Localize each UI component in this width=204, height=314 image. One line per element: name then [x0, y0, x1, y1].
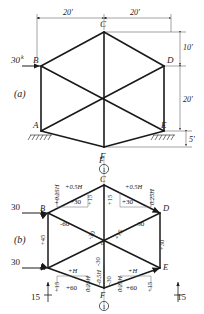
- panel-a-group: 20' 20' 10' 20' 5': [10, 8, 195, 161]
- support-a-hatch: [28, 135, 52, 140]
- member-col-de: +30: [158, 240, 165, 250]
- panel-a-label: (a): [14, 88, 26, 100]
- support-e-hatch: [151, 135, 175, 140]
- member-c-center-upper: -30: [94, 257, 101, 266]
- member-af-axial: +60: [66, 284, 77, 292]
- panel-b-joint-f-top: F: [98, 155, 105, 165]
- member-e-vert: +15: [146, 282, 153, 292]
- member-f-left-vert: -0.5H: [95, 270, 102, 285]
- panel-b-load-b: 30: [11, 202, 21, 212]
- dim-mid-height: 20': [183, 95, 193, 104]
- panel-b-joint-f: F: [99, 290, 106, 300]
- dim-top-right-span: 20': [130, 8, 140, 17]
- truss-figure-container: 20' 20' 10' 20' 5': [0, 0, 204, 314]
- panel-b-joint-b: B: [40, 203, 45, 213]
- member-e-moment: 0.25H: [116, 276, 123, 292]
- panel-b-label: (b): [14, 234, 26, 246]
- member-a-moment: 0.25H: [84, 276, 91, 292]
- member-diag-center-right: +15: [113, 228, 124, 240]
- panel-a-joint-a: A: [32, 120, 39, 130]
- member-cd-axial: +30: [122, 198, 133, 206]
- panel-a-load-value: 30: [10, 55, 21, 65]
- member-f-right-vert: -30: [105, 276, 112, 285]
- panel-a-joint-b: B: [33, 55, 39, 65]
- member-af-shear: +H: [68, 267, 77, 274]
- member-diag-do: -30: [135, 220, 145, 228]
- panel-b-joint-e: E: [162, 262, 169, 272]
- panel-b-reaction-right: 15: [177, 292, 187, 302]
- panel-b-reaction-left-arrow: [44, 282, 52, 302]
- member-cd-shear: +0.5H: [125, 183, 143, 190]
- member-fe-axial: +60: [126, 284, 137, 292]
- panel-b-joint-a: A: [39, 262, 46, 272]
- dim-upper-height: 10': [183, 43, 193, 52]
- panel-a-members: [41, 32, 164, 147]
- member-c-right-vert: +15: [106, 195, 113, 205]
- panel-a-joint-e: E: [160, 120, 167, 130]
- member-b-moment: +0.25H: [53, 184, 60, 205]
- dim-top-left-span: 20': [63, 8, 73, 17]
- member-a-vert: +15: [53, 282, 60, 292]
- panel-b-joint-d: D: [162, 203, 170, 213]
- panel-b-joint-c: C: [100, 174, 106, 184]
- member-bc-shear: +0.5H: [65, 183, 83, 190]
- section-marker-bottom-label: 1: [103, 304, 106, 310]
- panel-b-load-a: 30: [11, 257, 21, 267]
- panel-b-reaction-left: 15: [31, 292, 41, 302]
- panel-a-right-dimensions: [104, 32, 192, 147]
- dim-lower-height: 5': [189, 135, 195, 144]
- member-col-ab: +45: [39, 235, 46, 245]
- section-marker-top-label: 1: [103, 167, 106, 173]
- member-bc-axial: +30: [70, 198, 81, 206]
- member-c-left-vert: +15: [86, 195, 93, 205]
- member-diag-center-left: -30: [86, 229, 96, 240]
- panel-b-group: 1 1 30 30 15 15: [11, 155, 187, 311]
- member-d-moment: 0.25H: [148, 189, 155, 205]
- truss-diagram-svg: 20' 20' 10' 20' 5': [0, 0, 204, 314]
- member-diag-bo: -60: [60, 220, 70, 228]
- panel-b-members: [48, 185, 160, 288]
- panel-a-load-exponent: k: [21, 54, 24, 60]
- panel-a-joint-d: D: [166, 55, 174, 65]
- panel-a-joint-c: C: [100, 19, 107, 29]
- member-fe-shear: +H: [128, 267, 137, 274]
